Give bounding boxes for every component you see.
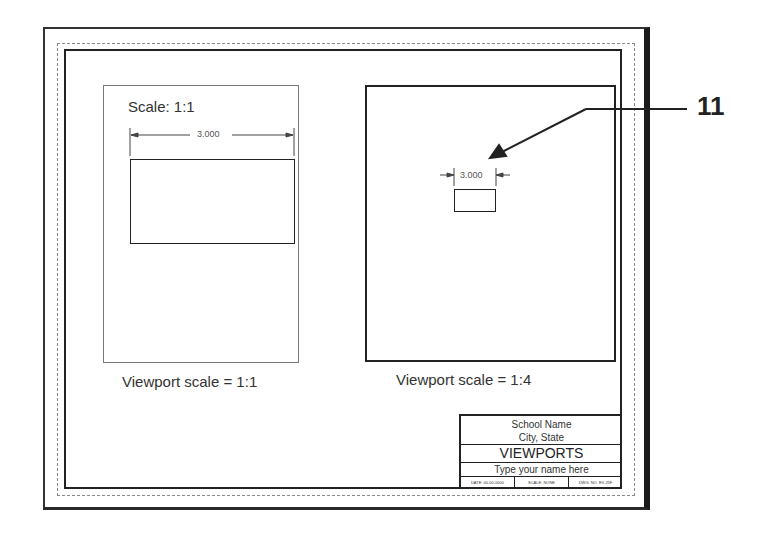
drafter-name-field[interactable]: Type your name here (461, 463, 622, 477)
rectangle-object-quarter-scale (454, 189, 496, 212)
title-block-meta-row: DATE: 00-00-0000 SCALE: NONE DWG. NO. EV… (461, 477, 622, 489)
viewport-caption-right: Viewport scale = 1:4 (396, 371, 531, 388)
dimension-text-right: 3.000 (458, 170, 485, 180)
drawing-title: VIEWPORTS (461, 445, 622, 463)
title-block-school: School Name City, State (461, 416, 622, 445)
title-block: School Name City, State VIEWPORTS Type y… (459, 414, 622, 489)
scale-note: Scale: 1:1 (128, 98, 195, 115)
date-field: DATE: 00-00-0000 (461, 477, 515, 489)
city-state: City, State (461, 431, 622, 444)
viewport-right[interactable] (365, 85, 616, 362)
dimension-text-left: 3.000 (195, 129, 222, 139)
rectangle-object-full-scale (130, 159, 295, 244)
callout-number: 11 (697, 91, 725, 122)
drawing-number-field: DWG. NO. EV-25F (569, 477, 622, 489)
school-name: School Name (461, 418, 622, 431)
viewport-caption-left: Viewport scale = 1:1 (122, 373, 257, 390)
scale-field: SCALE: NONE (515, 477, 569, 489)
